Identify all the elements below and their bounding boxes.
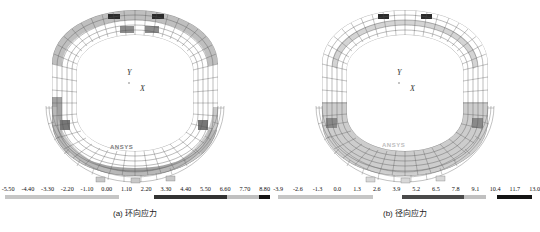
- colorbar-tick-label: 10.4: [490, 185, 501, 192]
- colorbar-ticks-a: -5.50-4.40-3.30-2.20-1.100.001.102.203.3…: [0, 185, 270, 194]
- colorbar-tick-label: 11.7: [510, 185, 521, 192]
- colorbar-tick-label: 2.6: [373, 185, 381, 192]
- axis-label-x-b: X: [410, 84, 415, 93]
- colorbar-tick-label: -2.20: [61, 185, 74, 192]
- colorbar-a: -5.50-4.40-3.30-2.20-1.100.001.102.203.3…: [0, 185, 270, 205]
- axis-label-y-b: Y: [397, 68, 401, 77]
- colorbar-tick-label: 6.5: [432, 185, 440, 192]
- colorbar-tick-label: 2.20: [141, 185, 152, 192]
- colorbar-tick-label: -1.3: [313, 185, 323, 192]
- colorbar-segment: [464, 195, 486, 199]
- colorbar-segment: [154, 195, 227, 199]
- colorbar-tick-label: -2.6: [293, 185, 303, 192]
- colorbar-bar-a: [0, 195, 270, 199]
- caption-b: (b) 径向应力: [270, 207, 540, 218]
- colorbar-tick-label: -1.10: [81, 185, 94, 192]
- colorbar-b: -3.9-2.6-1.30.01.32.63.95.26.57.89.110.4…: [270, 185, 540, 205]
- contour-plot-b: Y X ANSYS: [270, 2, 540, 184]
- axis-origin-marker-b: [398, 82, 400, 84]
- colorbar-segment: [259, 195, 270, 199]
- colorbar-segment: [278, 195, 373, 199]
- colorbar-segment: [402, 195, 464, 199]
- colorbar-tick-label: 3.9: [393, 185, 401, 192]
- colorbar-tick-label: 1.10: [121, 185, 132, 192]
- colorbar-segment: [5, 195, 118, 199]
- ansys-watermark-a: ANSYS: [110, 144, 133, 150]
- colorbar-tick-label: -5.50: [2, 185, 15, 192]
- colorbar-ticks-b: -3.9-2.6-1.30.01.32.63.95.26.57.89.110.4…: [270, 185, 540, 194]
- colorbar-tick-label: 5.2: [412, 185, 420, 192]
- panel-a: Y X ANSYS -5.50-4.40-3.30-2.20-1.100.001…: [0, 0, 270, 232]
- colorbar-tick-label: -4.40: [21, 185, 34, 192]
- colorbar-tick-label: 7.70: [239, 185, 250, 192]
- colorbar-tick-label: -3.9: [273, 185, 283, 192]
- colorbar-tick-label: 6.60: [220, 185, 231, 192]
- axis-origin-marker-a: [128, 82, 130, 84]
- colorbar-tick-label: 8.80: [259, 185, 270, 192]
- colorbar-tick-label: 7.8: [452, 185, 460, 192]
- contour-plot-a: Y X ANSYS: [0, 2, 270, 184]
- colorbar-tick-label: 13.0: [529, 185, 540, 192]
- colorbar-tick-label: 0.0: [333, 185, 341, 192]
- colorbar-segment: [497, 195, 532, 199]
- caption-a: (a) 环向应力: [0, 207, 270, 218]
- figure-root: Y X ANSYS -5.50-4.40-3.30-2.20-1.100.001…: [0, 0, 540, 232]
- axis-label-x-a: X: [140, 84, 145, 93]
- colorbar-bar-b: [270, 195, 540, 199]
- axis-label-y-a: Y: [127, 68, 131, 77]
- colorbar-tick-label: 1.3: [353, 185, 361, 192]
- panel-b: Y X ANSYS -3.9-2.6-1.30.01.32.63.95.26.5…: [270, 0, 540, 232]
- mesh-diagram-b: [270, 2, 540, 184]
- colorbar-segment: [227, 195, 259, 199]
- mesh-diagram-a: [0, 2, 270, 184]
- colorbar-tick-label: 4.40: [180, 185, 191, 192]
- ansys-watermark-b: ANSYS: [382, 142, 405, 148]
- colorbar-tick-label: 3.30: [161, 185, 172, 192]
- colorbar-tick-label: 5.50: [200, 185, 211, 192]
- colorbar-tick-label: 0.00: [101, 185, 112, 192]
- colorbar-tick-label: 9.1: [472, 185, 480, 192]
- colorbar-tick-label: -3.30: [41, 185, 54, 192]
